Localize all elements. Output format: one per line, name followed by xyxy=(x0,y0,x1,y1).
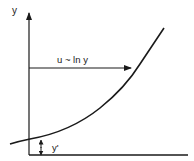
velocity-profile-diagram: y u ~ ln y y' xyxy=(0,0,194,161)
offset-label: y' xyxy=(52,142,59,153)
arrow-label: u ~ ln y xyxy=(57,54,88,65)
velocity-profile-curve xyxy=(10,28,164,144)
y-axis-label: y xyxy=(12,5,17,16)
